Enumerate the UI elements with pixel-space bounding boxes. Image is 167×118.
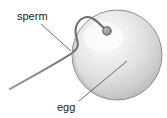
diagram-canvas: sperm egg xyxy=(0,0,167,118)
sperm-leader-line xyxy=(41,24,71,51)
egg-label: egg xyxy=(57,101,75,113)
sperm-egg-diagram: sperm egg xyxy=(0,0,167,118)
sperm-label: sperm xyxy=(17,10,48,22)
sperm-head xyxy=(103,27,111,35)
